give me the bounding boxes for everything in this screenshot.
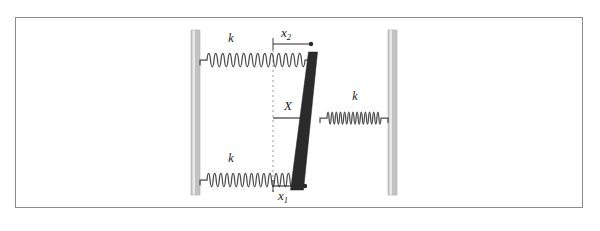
spring-constant-label-right: k	[352, 89, 358, 103]
diagram-canvas: k k k X x2 x1	[0, 0, 600, 231]
arrow-head-icon	[309, 42, 313, 46]
arrow-head-icon	[303, 184, 307, 188]
physics-diagram-figure: k k k X x2 x1	[0, 0, 600, 231]
left-wall	[191, 30, 200, 195]
displacement-label-X: X	[283, 98, 293, 113]
right-wall	[388, 30, 397, 195]
spring-constant-label-lower-left: k	[228, 151, 234, 165]
spring-constant-label-upper-left: k	[228, 31, 234, 45]
